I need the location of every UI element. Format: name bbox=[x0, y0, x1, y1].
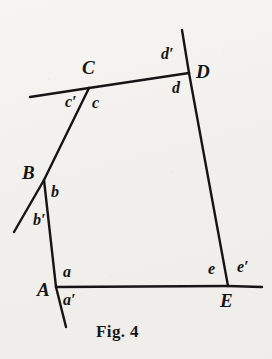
angle-label-e: e bbox=[208, 261, 215, 277]
side-EA bbox=[56, 286, 228, 287]
side-DE bbox=[189, 73, 228, 286]
vertex-label-D: D bbox=[196, 62, 210, 81]
figure-canvas: A B C D E a a′ b b′ c c′ d d′ e e′ Fig. … bbox=[0, 0, 272, 359]
vertex-label-E: E bbox=[220, 291, 233, 310]
side-extensions bbox=[14, 30, 262, 327]
angle-label-a-prime: a′ bbox=[63, 292, 76, 308]
angle-label-c-prime: c′ bbox=[65, 94, 77, 110]
angle-label-b-prime: b′ bbox=[33, 212, 46, 228]
vertex-label-B: B bbox=[22, 163, 35, 182]
extension-right-of-E bbox=[228, 286, 262, 287]
figure-caption: Fig. 4 bbox=[96, 322, 139, 342]
extension-above-D bbox=[182, 30, 189, 73]
angle-label-d-prime: d′ bbox=[161, 46, 174, 62]
angle-label-a: a bbox=[63, 264, 71, 280]
vertex-label-C: C bbox=[82, 58, 95, 77]
angle-label-d: d bbox=[172, 80, 180, 96]
vertex-label-A: A bbox=[37, 280, 50, 299]
angle-label-e-prime: e′ bbox=[237, 259, 249, 275]
angle-label-c: c bbox=[92, 95, 99, 111]
extension-left-of-C bbox=[30, 88, 89, 97]
angle-label-b: b bbox=[51, 184, 59, 200]
